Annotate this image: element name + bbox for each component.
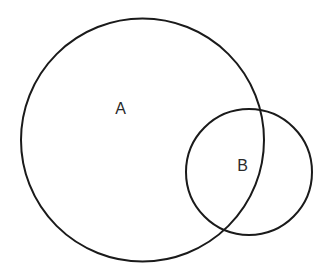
set-b-label: B <box>237 157 248 174</box>
set-b-circle <box>186 109 312 235</box>
venn-diagram: A B <box>0 0 326 275</box>
set-a-circle <box>21 19 264 262</box>
set-a-label: A <box>115 100 126 117</box>
